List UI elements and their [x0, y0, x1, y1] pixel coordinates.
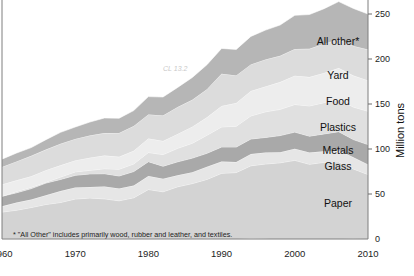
watermark-label: CL 13.2: [163, 65, 187, 72]
band-label-plastics: Plastics: [320, 121, 356, 133]
footnote-text: * "All Other" includes primarily wood, r…: [13, 230, 232, 239]
y-axis-title: Million tons: [394, 102, 406, 158]
y-axis-tick-label: 100: [375, 144, 390, 154]
y-axis-tick-label: 50: [375, 189, 385, 199]
x-axis-tick-label: 1980: [138, 248, 159, 259]
band-label-metals: Metals: [323, 144, 354, 156]
band-label-yard: Yard: [327, 69, 349, 81]
y-axis-tick-label: 0: [375, 234, 380, 244]
band-label-glass: Glass: [325, 160, 352, 172]
y-axis-tick-label: 250: [375, 9, 390, 19]
x-axis-tick-label: 1990: [211, 248, 232, 259]
page-root: d. aste in the United s have grown e wor…: [0, 0, 414, 276]
stacked-area-chart: CL 13.2 * "All Other" includes primarily…: [0, 0, 414, 276]
band-label-food: Food: [326, 95, 350, 107]
band-label-all-other: All other*: [317, 35, 360, 47]
chart-svg: CL 13.2 * "All Other" includes primarily…: [0, 0, 414, 276]
y-axis-tick-label: 150: [375, 99, 390, 109]
x-axis-tick-label: 2000: [284, 248, 305, 259]
x-axis-tick-label: 1960: [0, 248, 13, 259]
band-label-paper: Paper: [324, 197, 353, 209]
x-axis-tick-label: 2010: [357, 248, 378, 259]
footnote-group: * "All Other" includes primarily wood, r…: [13, 230, 232, 239]
x-axis-tick-label: 1970: [65, 248, 86, 259]
y-axis-tick-label: 200: [375, 54, 390, 64]
